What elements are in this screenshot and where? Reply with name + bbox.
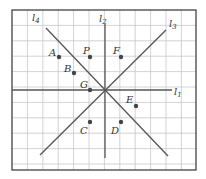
point-label-P: P (82, 45, 90, 56)
line-label-l2: l2 (99, 13, 107, 26)
line-label-l3: l3 (169, 18, 177, 31)
point-E (134, 104, 138, 108)
line-l4 (46, 28, 168, 156)
line-label-l1: l1 (174, 86, 182, 99)
point-label-C: C (80, 125, 88, 136)
point-C (88, 120, 92, 124)
point-D (119, 120, 123, 124)
point-label-B: B (63, 63, 71, 74)
point-G (88, 88, 92, 92)
point-label-G: G (80, 79, 88, 90)
point-label-F: F (112, 45, 121, 56)
point-label-D: D (110, 125, 119, 136)
point-label-A: A (48, 47, 56, 58)
line-label-l4: l4 (32, 12, 40, 25)
point-B (72, 71, 76, 75)
point-A (57, 55, 61, 59)
point-label-E: E (125, 94, 134, 105)
labeled-lines: l1l2l3l4 (12, 12, 182, 158)
line-l3 (40, 30, 166, 155)
geometry-grid-diagram: l1l2l3l4 APFBGECD (0, 0, 206, 179)
